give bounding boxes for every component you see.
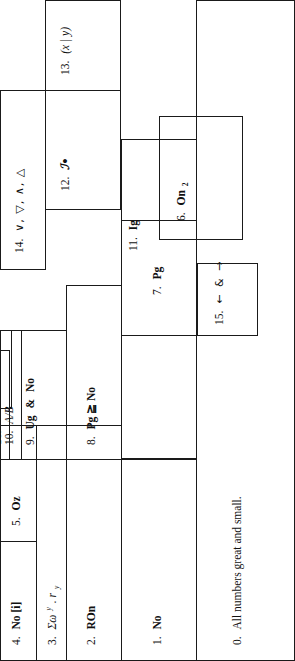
node-text-3-sub: y (52, 586, 61, 589)
node-text-3-sup: y (44, 607, 53, 610)
node-label-6: 6. On2 (176, 182, 190, 221)
node-text-6: On (175, 190, 187, 205)
node-text-3-tail: . r (46, 593, 58, 603)
node-label-16: 16. ∞ (0, 414, 4, 445)
node-num-13: 13. (59, 61, 71, 75)
node-box-15[interactable] (197, 263, 258, 336)
node-text-2: ROn (85, 606, 97, 630)
node-label-14: 14. ∨, ▽, ∧, △ (14, 168, 26, 253)
node-text-9a: Ug (24, 415, 36, 429)
node-label-8: 8. Pg ≧ No (86, 387, 98, 445)
node-num-9: 9. (24, 436, 36, 445)
node-text-16: ∞ (0, 414, 4, 424)
node-num-12: 12. (59, 177, 71, 191)
node-num-8: 8. (85, 436, 97, 445)
node-text-9c: No (24, 378, 36, 392)
node-label-3: 3. Σωy. ry (45, 586, 61, 645)
node-text-14: ∨, ▽, ∧, △ (13, 168, 26, 232)
node-box-12[interactable] (45, 90, 121, 210)
node-num-2: 2. (85, 636, 97, 645)
node-label-2: 2. ROn (86, 606, 98, 645)
node-label-5: 5. Oz (11, 496, 23, 526)
node-num-4: 4. (10, 636, 22, 645)
node-text-15: ← & → (213, 260, 226, 304)
node-label-4: 4. No [i] (11, 602, 23, 645)
node-label-9: 9. Ug & No (25, 378, 37, 445)
node-num-11: 11. (127, 237, 139, 251)
node-box-13[interactable] (45, 0, 121, 91)
node-num-5: 5. (10, 517, 22, 526)
node-num-6: 6. (175, 212, 187, 221)
node-num-1: 1. (151, 636, 163, 645)
node-box-16-outer[interactable] (0, 330, 12, 409)
node-num-0: 0. (231, 636, 243, 645)
node-text-6-sub: 2 (181, 182, 190, 186)
node-num-15: 15. (213, 311, 225, 325)
figure-stage: 0. All numbers great and small. 1. No 2.… (0, 0, 295, 661)
node-text-8: Pg ≧ No (85, 387, 97, 430)
node-label-12: 12. ℐ• (60, 157, 72, 191)
node-label-15: 15. ← & → (214, 260, 226, 325)
node-label-11: 11. Ig (128, 220, 140, 251)
node-label-13: 13. (x | y) (60, 27, 72, 75)
node-text-1: No (151, 615, 163, 629)
node-num-16: 16. (0, 431, 3, 445)
node-text-13: (x | y) (59, 27, 71, 54)
node-text-12: ℐ• (58, 157, 72, 169)
node-text-11: Ig (127, 220, 139, 230)
node-label-0: 0. All numbers great and small. (232, 496, 244, 645)
node-text-9b: & (24, 399, 36, 409)
node-text-5: Oz (10, 496, 22, 510)
node-box-6[interactable] (159, 116, 243, 240)
node-text-3: Σω (46, 615, 58, 630)
node-label-1: 1. No (152, 615, 164, 645)
node-text-4: No [i] (10, 602, 22, 630)
node-num-3: 3. (46, 636, 58, 645)
node-text-0: All numbers great and small. (231, 496, 243, 629)
diagram-canvas: 0. All numbers great and small. 1. No 2.… (0, 0, 295, 661)
node-num-14: 14. (13, 239, 25, 253)
